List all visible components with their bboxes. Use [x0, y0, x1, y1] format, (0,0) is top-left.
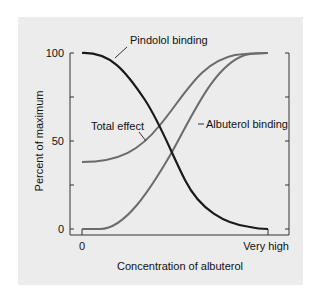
albuterol-label: Albuterol binding	[206, 118, 288, 130]
total-effect-label: Total effect	[91, 120, 144, 132]
albuterol-binding-curve	[82, 53, 268, 229]
y-tick-0: 0	[58, 223, 64, 235]
y-tick-50: 50	[52, 135, 64, 147]
y-tick-100: 100	[46, 47, 64, 59]
x-tick-0: 0	[79, 240, 85, 252]
pindolol-label: Pindolol binding	[130, 34, 208, 46]
y-axis-title: Percent of maximum	[33, 91, 45, 192]
axis-frame	[70, 53, 289, 235]
x-tick-very-high: Very high	[243, 240, 289, 252]
chart: 100 50 0 0 Very high Concentration of al…	[0, 0, 315, 295]
pindolol-binding-curve	[82, 53, 268, 229]
x-axis-title: Concentration of albuterol	[117, 260, 243, 272]
total-effect-leader	[139, 132, 146, 141]
axes	[70, 53, 289, 235]
pindolol-leader	[115, 47, 127, 58]
